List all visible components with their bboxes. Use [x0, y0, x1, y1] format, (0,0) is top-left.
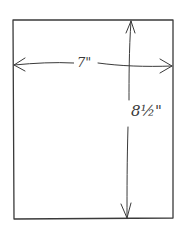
width-label: 7": [74, 56, 94, 69]
height-label: 8½": [130, 102, 163, 121]
bottom-arrowhead-icon: [121, 203, 131, 218]
